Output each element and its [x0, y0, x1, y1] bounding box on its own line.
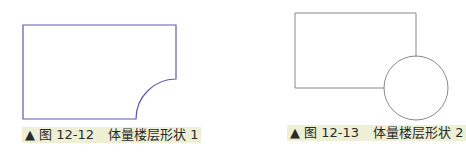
figure-number: 图 12-12 [39, 127, 94, 142]
figure-title: 体量楼层形状 2 [373, 125, 463, 140]
triangle-marker-icon: ▲ [290, 125, 300, 140]
figure-caption-12-13: ▲ 图 12-13体量楼层形状 2 [287, 125, 466, 141]
figure-number: 图 12-13 [304, 125, 359, 140]
figure-title: 体量楼层形状 1 [108, 127, 198, 142]
figure-caption-12-12: ▲ 图 12-12体量楼层形状 1 [22, 127, 201, 143]
triangle-marker-icon: ▲ [25, 127, 35, 142]
floor-shape-1 [23, 25, 176, 119]
floor-shape-2-circle [384, 56, 448, 120]
floor-shape-2-rect [295, 13, 416, 88]
